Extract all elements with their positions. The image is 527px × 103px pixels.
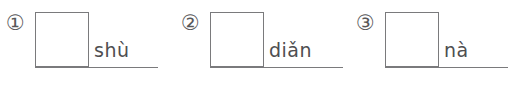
item-number-circled-1: ①: [6, 11, 31, 36]
writing-baseline-1: [35, 67, 158, 68]
character-write-box-3[interactable]: [385, 12, 439, 67]
pinyin-label-2: diǎn: [269, 38, 312, 62]
exercise-item-3: ③ nà: [356, 0, 527, 103]
character-write-box-1[interactable]: [35, 12, 89, 67]
pinyin-label-1: shù: [94, 38, 129, 62]
writing-baseline-3: [385, 67, 508, 68]
exercise-item-2: ② diǎn: [181, 0, 356, 103]
item-number-circled-2: ②: [181, 11, 206, 36]
writing-baseline-2: [210, 67, 343, 68]
pinyin-label-3: nà: [444, 38, 469, 62]
character-write-box-2[interactable]: [210, 12, 264, 67]
item-number-circled-3: ③: [356, 11, 381, 36]
exercise-item-1: ① shù: [6, 0, 176, 103]
worksheet-canvas: ① shù ② diǎn ③ nà: [0, 0, 527, 103]
